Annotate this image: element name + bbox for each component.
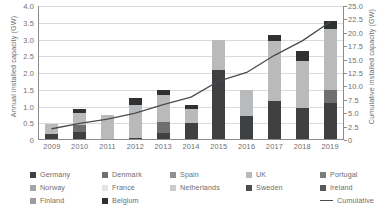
plot-area [38, 6, 344, 140]
plot-inner [38, 6, 344, 140]
y-axis-right-tick-label: 25.0 [348, 2, 363, 11]
legend-color-swatch-icon [30, 198, 36, 204]
legend-color-swatch-icon [246, 185, 252, 191]
legend-label: Cumulative [337, 196, 374, 205]
y-axis-right-tickmark [344, 60, 347, 61]
legend-label: Ireland [330, 183, 353, 192]
legend-label: Portugal [330, 170, 358, 179]
chart-legend: GermanyDenmarkSpainUKPortugalNorwayFranc… [30, 170, 378, 212]
y-axis-right-tickmark [344, 19, 347, 20]
legend-color-swatch-icon [170, 172, 176, 178]
y-axis-right-tickmark [344, 100, 347, 101]
legend-label: Sweden [256, 183, 283, 192]
y-axis-left-tick-label: 2.0 [23, 69, 34, 78]
y-axis-left-tick-label: 0 [30, 136, 34, 145]
y-axis-right-tick-label: 7.5 [348, 96, 359, 105]
y-axis-right-ticks: 02.55.07.510.012.515.017.520.022.525.0 [348, 6, 376, 140]
x-axis-tick-label: 2012 [121, 142, 149, 151]
legend-item[interactable]: Portugal [320, 170, 358, 179]
legend-color-swatch-icon [30, 172, 36, 178]
legend-label: Spain [180, 170, 199, 179]
y-axis-right-tick-label: 17.5 [348, 42, 363, 51]
legend-item[interactable]: Netherlands [170, 183, 220, 192]
x-axis-labels: 2009201020112012201320142015201620172018… [38, 142, 344, 154]
legend-color-swatch-icon [320, 172, 326, 178]
legend-color-swatch-icon [246, 172, 252, 178]
legend-color-swatch-icon [102, 185, 108, 191]
x-axis-tick-label: 2009 [38, 142, 66, 151]
y-axis-left-ticks: 00.51.01.52.02.53.03.54.0 [8, 6, 34, 140]
legend-item[interactable]: Spain [170, 170, 199, 179]
y-axis-right-tick-label: 20.0 [348, 29, 363, 38]
y-axis-right-tick-label: 5.0 [348, 109, 359, 118]
legend-color-swatch-icon [102, 198, 108, 204]
y-axis-right-tickmark [344, 33, 347, 34]
legend-label: Finland [40, 196, 64, 205]
y-axis-left-tick-label: 0.5 [23, 119, 34, 128]
chart-container: Annual installed capacity (GW) Cumulativ… [0, 0, 382, 218]
y-axis-right-tickmark [344, 140, 347, 141]
x-axis-tick-label: 2019 [316, 142, 344, 151]
x-axis-tick-label: 2013 [149, 142, 177, 151]
cumulative-line-path [52, 22, 330, 129]
x-axis-tick-label: 2017 [260, 142, 288, 151]
legend-label: France [112, 183, 135, 192]
x-axis-line [38, 139, 344, 140]
legend-item[interactable]: UK [246, 170, 266, 179]
legend-item[interactable]: Norway [30, 183, 65, 192]
y-axis-left-line [38, 6, 39, 140]
legend-color-swatch-icon [102, 172, 108, 178]
x-axis-tick-label: 2018 [288, 142, 316, 151]
y-axis-left-tick-label: 3.0 [23, 36, 34, 45]
y-axis-right-tick-label: 22.5 [348, 15, 363, 24]
x-axis-tick-label: 2015 [205, 142, 233, 151]
legend-color-swatch-icon [170, 185, 176, 191]
y-axis-right-tickmark [344, 73, 347, 74]
legend-item[interactable]: Belgium [102, 196, 139, 205]
legend-item-cumulative[interactable]: Cumulative [320, 196, 374, 205]
cumulative-line-series [38, 6, 344, 140]
legend-line-swatch-icon [320, 200, 333, 201]
legend-label: Belgium [112, 196, 139, 205]
y-axis-right-line [343, 6, 344, 140]
y-axis-left-tick-label: 2.5 [23, 52, 34, 61]
y-axis-right-tickmark [344, 127, 347, 128]
legend-label: Germany [40, 170, 70, 179]
y-axis-right-tick-label: 0 [348, 136, 352, 145]
legend-label: UK [256, 170, 266, 179]
y-axis-right-tick-label: 12.5 [348, 69, 363, 78]
legend-item[interactable]: France [102, 183, 135, 192]
y-axis-left-tick-label: 4.0 [23, 2, 34, 11]
x-axis-tick-label: 2014 [177, 142, 205, 151]
y-axis-left-tick-label: 1.0 [23, 103, 34, 112]
y-axis-right-tick-label: 10.0 [348, 82, 363, 91]
y-axis-right-tickmark [344, 86, 347, 87]
x-axis-tick-label: 2011 [94, 142, 122, 151]
legend-color-swatch-icon [320, 185, 326, 191]
legend-item[interactable]: Sweden [246, 183, 283, 192]
y-axis-left-tick-label: 1.5 [23, 86, 34, 95]
legend-item[interactable]: Germany [30, 170, 70, 179]
y-axis-right-tickmark [344, 6, 347, 7]
legend-color-swatch-icon [30, 185, 36, 191]
y-axis-left-tick-label: 3.5 [23, 19, 34, 28]
y-axis-right-tickmark [344, 46, 347, 47]
legend-label: Netherlands [180, 183, 220, 192]
legend-item[interactable]: Ireland [320, 183, 353, 192]
x-axis-tick-label: 2010 [66, 142, 94, 151]
x-axis-tick-label: 2016 [233, 142, 261, 151]
legend-label: Denmark [112, 170, 142, 179]
legend-item[interactable]: Denmark [102, 170, 142, 179]
y-axis-right-tick-label: 15.0 [348, 56, 363, 65]
legend-label: Norway [40, 183, 65, 192]
legend-item[interactable]: Finland [30, 196, 64, 205]
y-axis-right-tick-label: 2.5 [348, 123, 359, 132]
y-axis-right-tickmark [344, 113, 347, 114]
